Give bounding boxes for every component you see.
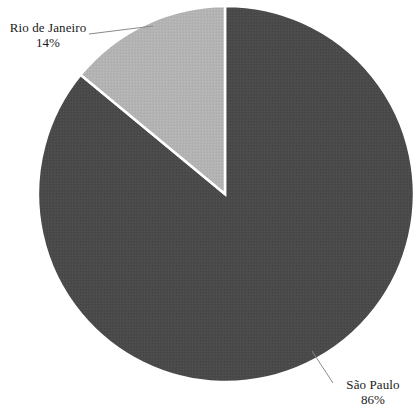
slice-label-sao-paulo-category: São Paulo <box>332 377 414 392</box>
slice-label-rio-de-janeiro-category: Rio de Janeiro <box>2 20 94 35</box>
pie-chart-figure: Rio de Janeiro 14% São Paulo 86% <box>0 0 417 415</box>
pie-chart-canvas <box>0 0 417 415</box>
slice-label-sao-paulo-percent: 86% <box>332 392 414 407</box>
slice-label-sao-paulo: São Paulo 86% <box>332 377 414 407</box>
slice-label-rio-de-janeiro-percent: 14% <box>2 35 94 50</box>
slice-label-rio-de-janeiro: Rio de Janeiro 14% <box>2 20 94 50</box>
